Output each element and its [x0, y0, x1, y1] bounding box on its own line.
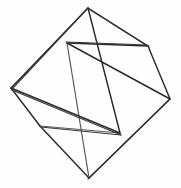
cube-line-drawing — [0, 0, 181, 188]
wireframe-cube-figure — [0, 0, 181, 188]
